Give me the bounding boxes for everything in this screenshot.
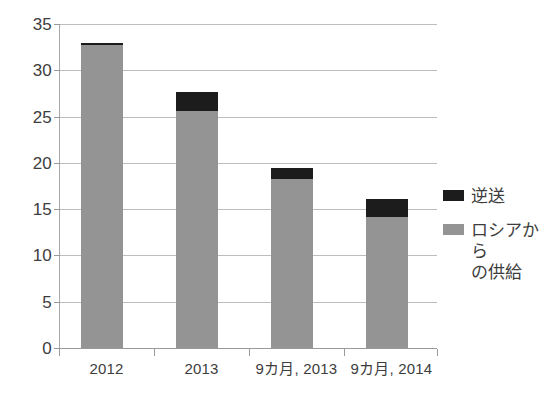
bar-segment-reverse-2013[interactable] — [176, 92, 218, 112]
legend-item-supply[interactable]: ロシアから の供給 — [443, 220, 555, 283]
y-tick-mark-30 — [54, 70, 60, 71]
bar-group-2013[interactable] — [176, 92, 218, 349]
y-tick-mark-20 — [54, 163, 60, 164]
y-tick-label-10: 10 — [6, 247, 52, 264]
bar-segment-supply-9months-2013[interactable] — [271, 179, 313, 349]
bar-segment-supply-9months-2014[interactable] — [366, 217, 408, 348]
bar-segment-supply-2013[interactable] — [176, 111, 218, 348]
bar-segment-supply-2012[interactable] — [81, 45, 123, 348]
y-tick-mark-5 — [54, 302, 60, 303]
x-axis-separator-3 — [249, 349, 250, 356]
gridline-35 — [59, 24, 437, 25]
y-tick-mark-25 — [54, 117, 60, 118]
y-tick-label-5: 5 — [6, 294, 52, 311]
y-tick-mark-35 — [54, 24, 60, 25]
x-axis-separator-5 — [437, 349, 438, 356]
x-tick-label-2012: 2012 — [59, 360, 154, 378]
y-tick-label-0: 0 — [6, 340, 52, 357]
y-axis-line — [59, 24, 60, 349]
x-axis-separator-4 — [344, 349, 345, 356]
bar-group-2012[interactable] — [81, 43, 123, 349]
y-tick-mark-15 — [54, 209, 60, 210]
y-tick-label-15: 15 — [6, 201, 52, 218]
legend-label-supply: ロシアから の供給 — [471, 220, 555, 283]
legend-item-reverse[interactable]: 逆送 — [443, 186, 555, 207]
legend-label-reverse: 逆送 — [471, 186, 505, 207]
legend-swatch-reverse — [443, 190, 464, 201]
bar-group-9months-2013[interactable] — [271, 168, 313, 348]
stacked-bar-chart: 35 30 25 20 15 10 5 0 2012 2013 9カ月, 201… — [0, 0, 558, 396]
bar-segment-reverse-9months-2014[interactable] — [366, 199, 408, 218]
y-axis-labels: 35 30 25 20 15 10 5 0 — [0, 0, 52, 396]
x-axis-line — [59, 348, 437, 349]
plot-area — [59, 24, 437, 348]
y-tick-label-25: 25 — [6, 109, 52, 126]
legend-swatch-supply — [443, 224, 464, 235]
y-tick-label-30: 30 — [6, 62, 52, 79]
y-tick-mark-10 — [54, 255, 60, 256]
bar-group-9months-2014[interactable] — [366, 199, 408, 348]
x-tick-label-2013: 2013 — [154, 360, 249, 378]
bar-segment-reverse-9months-2013[interactable] — [271, 168, 313, 178]
y-tick-label-20: 20 — [6, 155, 52, 172]
y-tick-label-35: 35 — [6, 16, 52, 33]
x-axis-separator-1 — [59, 349, 60, 356]
legend: 逆送 ロシアから の供給 — [443, 186, 555, 296]
x-tick-label-9months-2014: 9カ月, 2014 — [344, 360, 439, 378]
x-tick-label-9months-2013: 9カ月, 2013 — [249, 360, 344, 378]
x-axis-separator-2 — [154, 349, 155, 356]
